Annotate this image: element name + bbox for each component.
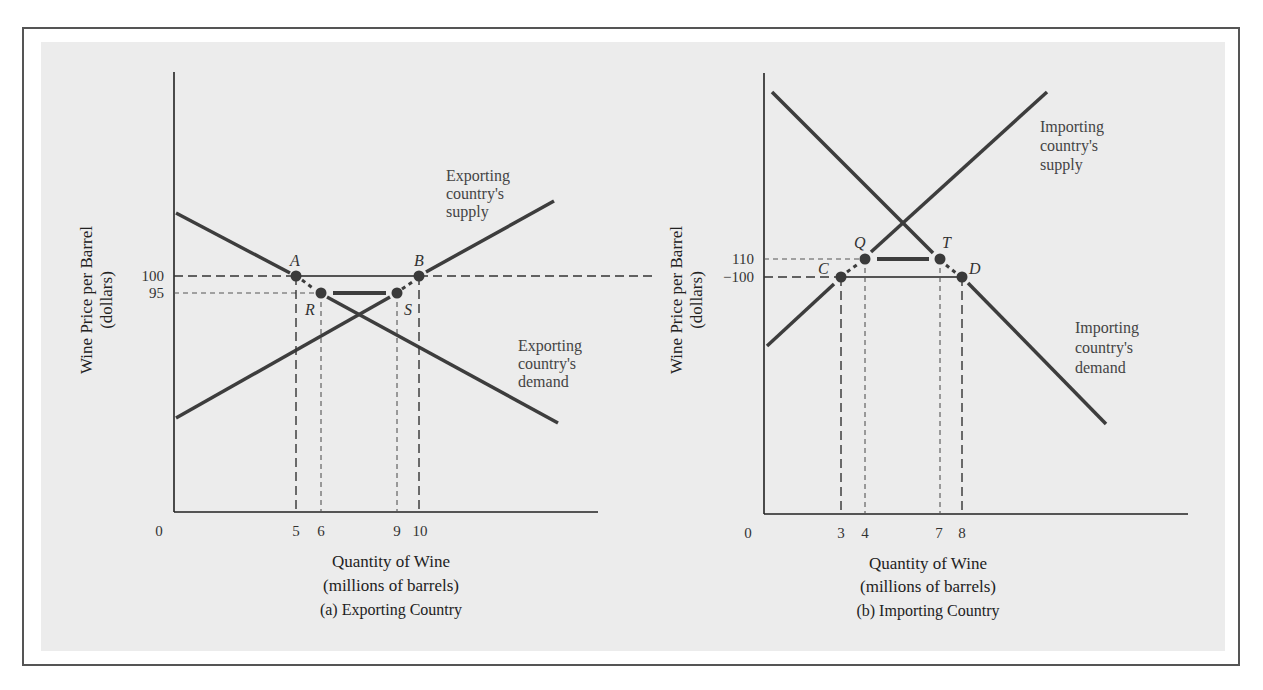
panel-a-ytick-95: 95 (149, 285, 164, 301)
panel-a-demand-label: Exporting country's demand (518, 337, 586, 390)
panel-b-label-d: D (968, 260, 981, 277)
panel-b-label-c: C (818, 260, 829, 277)
panel-b-x-axis-unit: (millions of barrels) (860, 577, 996, 596)
panel-b-y-axis-unit: (dollars) (687, 271, 706, 329)
panel-b-origin: 0 (744, 525, 752, 541)
panel-a-x-axis-title: Quantity of Wine (332, 552, 450, 571)
panel-b-label-t: T (942, 234, 952, 251)
panel-b-point-q (860, 254, 871, 265)
trade-diagram: A R S B 100 95 0 5 6 9 10 Exporting coun… (0, 0, 1263, 690)
panel-b-point-c (836, 272, 847, 283)
panel-b-point-d (957, 272, 968, 283)
panel-a-label-b: B (414, 252, 424, 269)
panel-a-caption: (a) Exporting Country (320, 601, 462, 619)
panel-a-point-a (291, 271, 302, 282)
panel-b-x-axis-title: Quantity of Wine (869, 554, 987, 573)
panel-a-demand-dotted (302, 280, 314, 289)
panel-b-xtick-3: 3 (837, 525, 845, 541)
panel-b-ytick-110: 110 (732, 251, 754, 267)
panel-b-demand-upper (772, 92, 933, 253)
panel-a-point-s (392, 288, 403, 299)
panel-b-xtick-4: 4 (861, 525, 869, 541)
panel-a-origin: 0 (155, 523, 163, 539)
panel-a-ytick-100: 100 (142, 268, 165, 284)
panel-a-label-a: A (289, 252, 300, 269)
panel-b-caption: (b) Importing Country (856, 602, 999, 620)
panel-a-xtick-5: 5 (292, 523, 300, 539)
panel-a-y-axis-title: Wine Price per Barrel (77, 226, 96, 374)
panel-b-y-axis-title: Wine Price per Barrel (667, 226, 686, 374)
panel-a-label-r: R (304, 301, 315, 318)
panel-b-point-t (935, 254, 946, 265)
panel-b-ytick-100: −100 (723, 269, 754, 285)
panel-a-xtick-9: 9 (393, 523, 401, 539)
panel-a-exporting-country: A R S B 100 95 0 5 6 9 10 Exporting coun… (77, 72, 652, 619)
panel-a-y-axis-unit: (dollars) (97, 271, 116, 329)
panel-b-supply-label: Importing country's supply (1040, 118, 1108, 174)
panel-b-supply-dotted (847, 264, 858, 272)
panel-b-demand-label: Importing country's demand (1075, 319, 1143, 376)
panel-b-importing-country: C Q T D 110 −100 0 3 4 7 8 Importing cou… (667, 73, 1188, 620)
panel-a-xtick-6: 6 (317, 523, 325, 539)
panel-a-supply-label: Exporting country's supply (446, 167, 514, 221)
panel-a-xtick-10: 10 (413, 523, 428, 539)
panel-a-x-axis-unit: (millions of barrels) (323, 576, 459, 595)
panel-b-demand-dotted (946, 265, 956, 273)
panel-b-supply-lower (767, 284, 834, 346)
panel-b-xtick-8: 8 (958, 525, 966, 541)
panel-b-supply-upper (871, 92, 1047, 252)
panel-a-point-r (316, 288, 327, 299)
panel-a-label-s: S (404, 301, 412, 318)
panel-b-xtick-7: 7 (935, 525, 943, 541)
panel-a-demand-upper (176, 213, 290, 273)
panel-b-label-q: Q (854, 234, 866, 251)
panel-a-point-b (414, 271, 425, 282)
panel-a-supply-dotted (402, 281, 414, 289)
